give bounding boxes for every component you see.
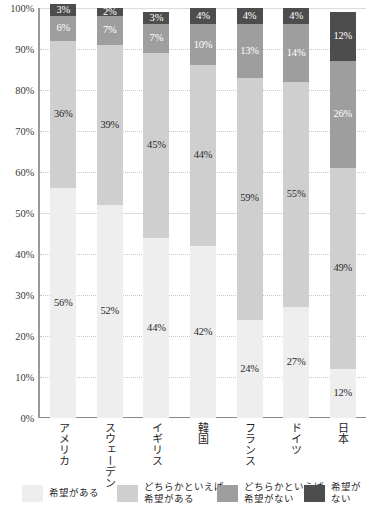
bar-segment[interactable]: 3%	[143, 12, 169, 24]
bar-column[interactable]: 12%49%26%12%	[330, 8, 356, 418]
bar-segment[interactable]: 45%	[143, 53, 169, 238]
x-axis-label-6: 日本	[337, 422, 348, 444]
bar-segment-value-label: 52%	[101, 306, 120, 317]
bar-segment-value-label: 13%	[240, 46, 259, 57]
bar-segment-value-label: 44%	[194, 150, 213, 161]
bar-segment[interactable]: 39%	[97, 45, 123, 205]
bar-column[interactable]: 42%44%10%4%	[190, 8, 216, 418]
bar-segment[interactable]: 7%	[97, 16, 123, 45]
bar-segment-value-label: 10%	[194, 40, 213, 51]
stacked-bar-chart: 56%36%6%3%52%39%7%2%44%45%7%3%42%44%10%4…	[0, 0, 370, 515]
plot-area: 56%36%6%3%52%39%7%2%44%45%7%3%42%44%10%4…	[38, 8, 366, 418]
y-axis-tick-50pct: 50%	[0, 208, 34, 219]
x-axis-label-0: アメリカ	[57, 422, 68, 466]
bar-segment[interactable]: 24%	[237, 320, 263, 418]
legend-label: 希望がある	[49, 487, 99, 499]
bar-segment[interactable]: 4%	[190, 8, 216, 24]
bar-segment[interactable]: 56%	[50, 188, 76, 418]
y-axis-tick-90pct: 90%	[0, 44, 34, 55]
bar-segment-value-label: 42%	[194, 327, 213, 338]
bar-segment[interactable]: 12%	[330, 369, 356, 418]
legend-swatch	[22, 485, 43, 502]
bar-segment-value-label: 12%	[333, 31, 352, 42]
y-axis-tick-60pct: 60%	[0, 167, 34, 178]
bar-segment[interactable]: 36%	[50, 41, 76, 189]
y-axis-tick-20pct: 20%	[0, 331, 34, 342]
bar-segment[interactable]: 14%	[283, 24, 309, 81]
bar-segment[interactable]: 42%	[190, 246, 216, 418]
y-axis-tick-100pct: 100%	[0, 3, 34, 14]
bar-segment-value-label: 3%	[56, 5, 70, 16]
bar-segment[interactable]: 55%	[283, 82, 309, 308]
bar-segment-value-label: 39%	[101, 120, 120, 131]
bar-segment-value-label: 3%	[150, 13, 164, 24]
bar-segment[interactable]: 27%	[283, 307, 309, 418]
bar-column[interactable]: 24%59%13%4%	[237, 8, 263, 418]
bar-segment[interactable]: 13%	[237, 24, 263, 77]
bar-column[interactable]: 44%45%7%3%	[143, 8, 169, 418]
bar-segment-value-label: 24%	[240, 364, 259, 375]
bar-segment-value-label: 6%	[56, 23, 70, 34]
y-axis-tick-30pct: 30%	[0, 290, 34, 301]
legend-item[interactable]: どちらかといえば 希望がある	[117, 478, 224, 508]
bar-segment[interactable]: 3%	[50, 4, 76, 16]
x-axis-label-2: イギリス	[150, 422, 161, 466]
bar-segment[interactable]: 44%	[143, 238, 169, 418]
legend-label: 希望がない	[331, 481, 362, 505]
bar-segment-value-label: 7%	[103, 25, 117, 36]
bar-segment[interactable]: 2%	[97, 8, 123, 16]
legend-item[interactable]: 希望がある	[22, 478, 99, 508]
y-axis-tick-40pct: 40%	[0, 249, 34, 260]
bar-column[interactable]: 56%36%6%3%	[50, 8, 76, 418]
y-axis-tick-0pct: 0%	[0, 413, 34, 424]
bar-segment-value-label: 59%	[240, 193, 259, 204]
x-axis-label-5: ドイツ	[290, 422, 301, 455]
bar-segment-value-label: 4%	[196, 11, 210, 22]
bar-segment[interactable]: 26%	[330, 61, 356, 168]
bar-segment[interactable]: 44%	[190, 65, 216, 245]
bar-segment-value-label: 56%	[54, 298, 73, 309]
bar-segment[interactable]: 59%	[237, 78, 263, 320]
bar-segment-value-label: 7%	[150, 33, 164, 44]
bar-segment-value-label: 4%	[289, 11, 303, 22]
y-axis-tick-80pct: 80%	[0, 85, 34, 96]
bar-segment-value-label: 55%	[287, 189, 306, 200]
bar-segment-value-label: 45%	[147, 140, 166, 151]
bar-segment-value-label: 27%	[287, 357, 306, 368]
chart-legend: 希望があるどちらかといえば 希望があるどちらかといえば 希望がない希望がない	[12, 478, 362, 508]
bar-segment[interactable]: 10%	[190, 24, 216, 65]
bar-segment[interactable]: 49%	[330, 168, 356, 369]
bar-segment-value-label: 14%	[287, 48, 306, 59]
y-axis-tick-10pct: 10%	[0, 372, 34, 383]
legend-label: どちらかといえば 希望がある	[144, 481, 224, 505]
legend-swatch	[117, 485, 138, 502]
bar-segment[interactable]: 12%	[330, 12, 356, 61]
bar-segment-value-label: 44%	[147, 323, 166, 334]
bar-segment-value-label: 26%	[333, 109, 352, 120]
bar-segment[interactable]: 4%	[237, 8, 263, 24]
x-axis-label-3: 韓国	[197, 422, 208, 444]
bar-segment-value-label: 12%	[333, 388, 352, 399]
bar-segment-value-label: 2%	[103, 7, 117, 18]
bar-segment-value-label: 49%	[333, 263, 352, 274]
y-axis-tick-70pct: 70%	[0, 126, 34, 137]
bar-segment-value-label: 36%	[54, 109, 73, 120]
bar-column[interactable]: 52%39%7%2%	[97, 8, 123, 418]
bar-column[interactable]: 27%55%14%4%	[283, 8, 309, 418]
legend-swatch	[304, 485, 325, 502]
bar-segment[interactable]: 7%	[143, 24, 169, 53]
bar-segment[interactable]: 4%	[283, 8, 309, 24]
bar-segment[interactable]: 6%	[50, 16, 76, 41]
bar-segment-value-label: 4%	[243, 11, 257, 22]
bar-segment[interactable]: 52%	[97, 205, 123, 418]
bars-layer: 56%36%6%3%52%39%7%2%44%45%7%3%42%44%10%4…	[40, 8, 366, 418]
legend-swatch	[217, 485, 238, 502]
legend-item[interactable]: 希望がない	[304, 478, 362, 508]
x-axis-label-4: フランス	[244, 422, 255, 466]
